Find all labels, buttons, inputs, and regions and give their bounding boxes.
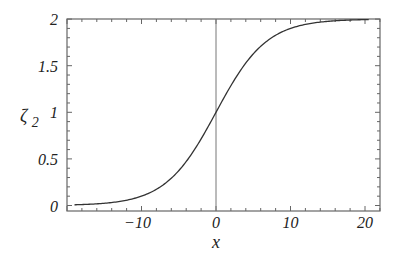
data-curve (74, 20, 368, 205)
y-tick-label: 1.5 (38, 58, 58, 75)
axis-ticks (67, 19, 380, 211)
y-tick-label: 0.5 (38, 151, 58, 168)
y-tick-labels: 00.511.52 (38, 11, 58, 214)
x-tick-label: 10 (283, 214, 299, 231)
y-tick-label: 1 (50, 104, 58, 121)
y-axis-label-subscript: 2 (32, 115, 39, 130)
y-tick-label: 0 (50, 198, 58, 215)
x-tick-labels: −1001020 (124, 214, 373, 231)
x-tick-label: 0 (212, 214, 220, 231)
y-tick-label: 2 (50, 11, 58, 28)
chart: −1001020 00.511.52 x ζ 2 (0, 0, 402, 258)
y-axis-label-main: ζ (20, 106, 29, 126)
y-axis-label: ζ 2 (20, 106, 39, 130)
x-axis-label: x (211, 232, 220, 252)
x-tick-label: −10 (124, 214, 151, 231)
x-tick-label: 20 (357, 214, 373, 231)
plot-frame (67, 19, 380, 211)
